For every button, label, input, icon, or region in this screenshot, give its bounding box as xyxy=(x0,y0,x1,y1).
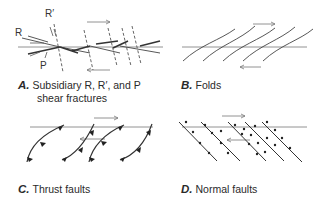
panel-a-shear-fractures: R R′ P A.Subsidiary R, R′, and P shear f… xyxy=(0,0,165,105)
panel-b-folds: B.Folds xyxy=(165,0,327,105)
caption-text: Folds xyxy=(196,79,222,91)
label-p: P xyxy=(40,60,47,71)
caption-letter: C. xyxy=(18,183,30,195)
caption-d: D.Normal faults xyxy=(181,183,257,195)
caption-c: C.Thrust faults xyxy=(18,183,90,195)
caption-text: Thrust faults xyxy=(33,183,91,195)
caption-text: Normal faults xyxy=(196,183,258,195)
panel-d-normal-faults: D.Normal faults xyxy=(165,105,327,209)
label-r-prime: R′ xyxy=(45,8,54,19)
panel-c-thrust-faults: C.Thrust faults xyxy=(0,105,165,209)
caption-a-line2: shear fractures xyxy=(37,92,107,104)
label-r: R xyxy=(15,27,22,38)
caption-a: A.Subsidiary R, R′, and P xyxy=(18,79,141,91)
caption-b: B.Folds xyxy=(181,79,221,91)
caption-text: Subsidiary R, R′, and P xyxy=(33,79,141,91)
caption-letter: B. xyxy=(181,79,193,91)
caption-letter: A. xyxy=(18,79,30,91)
caption-letter: D. xyxy=(181,183,193,195)
